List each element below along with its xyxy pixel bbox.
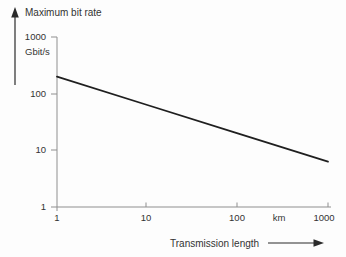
- right-arrow-icon: [314, 239, 325, 247]
- x-axis-unit: km: [273, 212, 286, 223]
- x-tick-label-1: 1: [54, 212, 59, 223]
- y-tick-label-100: 100: [30, 88, 46, 99]
- y-axis-unit: Gbit/s: [25, 46, 50, 57]
- x-axis-title: Transmission length: [170, 238, 259, 249]
- up-arrow-icon: [11, 7, 19, 18]
- y-tick-label-1000: 1000: [25, 31, 46, 42]
- y-tick-label-1: 1: [41, 201, 46, 212]
- x-tick-label-1000: 1000: [313, 212, 334, 223]
- y-axis-direction-arrow: [11, 7, 19, 85]
- y-tick-label-10: 10: [35, 144, 46, 155]
- chart-canvas: Maximum bit rate Gbit/s 1000 100 10 1 1 …: [0, 0, 346, 257]
- x-axis-direction-arrow: [268, 239, 324, 247]
- x-tick-label-100: 100: [229, 212, 245, 223]
- figure-bitrate-vs-length: Maximum bit rate Gbit/s 1000 100 10 1 1 …: [0, 0, 346, 257]
- x-tick-label-10: 10: [141, 212, 152, 223]
- y-axis-title: Maximum bit rate: [25, 7, 102, 18]
- bitrate-data-line: [57, 77, 328, 162]
